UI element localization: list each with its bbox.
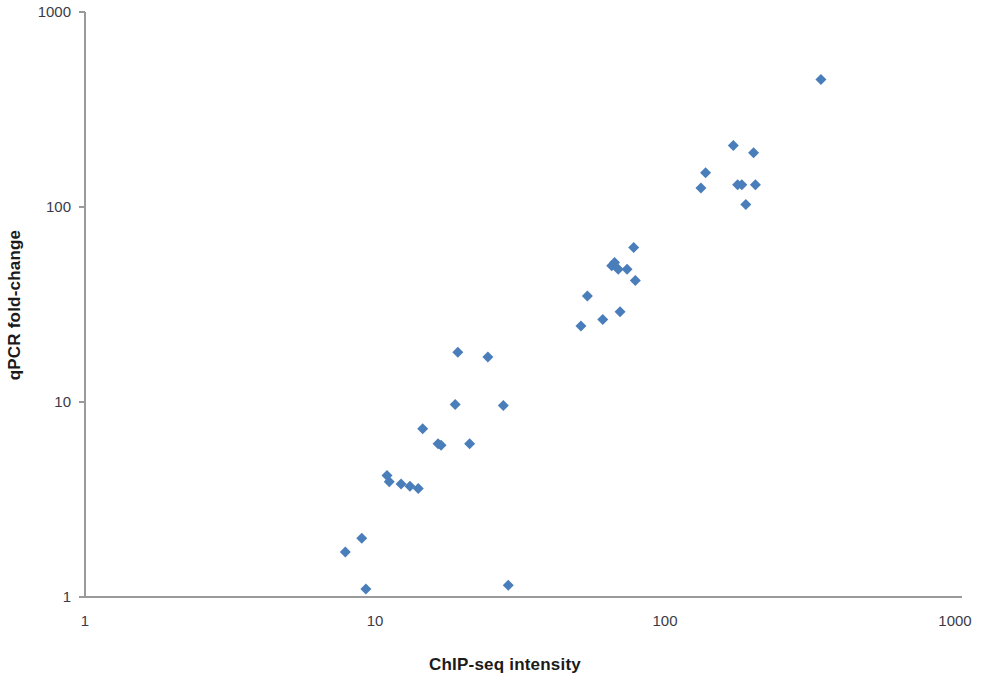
data-point (815, 74, 826, 85)
y-tick-label: 100 (46, 198, 71, 215)
x-tick-label: 100 (652, 612, 677, 629)
data-point (615, 306, 626, 317)
data-point (748, 147, 759, 158)
x-axis-ticks: 1101001000 (81, 612, 972, 629)
y-axis-title: qPCR fold-change (5, 230, 24, 381)
data-point (417, 423, 428, 434)
data-point (728, 140, 739, 151)
data-point (622, 264, 633, 275)
data-point (452, 347, 463, 358)
data-point (575, 321, 586, 332)
x-tick-label: 1 (81, 612, 89, 629)
axis-lines (85, 12, 962, 597)
data-point (413, 483, 424, 494)
data-point (340, 547, 351, 558)
y-tick-label: 1 (63, 588, 71, 605)
scatter-chart: 1101001000 1101001000 ChIP-seq intensity… (0, 0, 983, 680)
axes (85, 12, 962, 597)
data-point (450, 399, 461, 410)
x-axis-title: ChIP-seq intensity (429, 655, 581, 674)
data-point (503, 580, 514, 591)
data-point (700, 167, 711, 178)
y-axis-ticks: 1101001000 (38, 3, 85, 605)
data-points (340, 74, 827, 594)
data-point (482, 352, 493, 363)
data-point (356, 533, 367, 544)
data-point (404, 481, 415, 492)
data-point (597, 314, 608, 325)
y-tick-label: 1000 (38, 3, 71, 20)
x-tick-label: 1000 (938, 612, 971, 629)
data-point (630, 275, 641, 286)
y-tick-label: 10 (54, 393, 71, 410)
data-point (628, 242, 639, 253)
plot-canvas: 1101001000 1101001000 ChIP-seq intensity… (0, 0, 983, 680)
data-point (360, 583, 371, 594)
data-point (695, 183, 706, 194)
data-point (396, 478, 407, 489)
data-point (582, 290, 593, 301)
x-tick-label: 10 (367, 612, 384, 629)
data-point (464, 438, 475, 449)
data-point (498, 400, 509, 411)
data-point (740, 199, 751, 210)
data-point (750, 179, 761, 190)
